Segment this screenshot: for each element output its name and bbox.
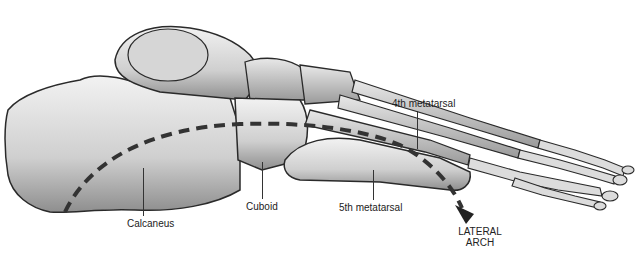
label-fifth-metatarsal: 5th metatarsal bbox=[339, 202, 402, 213]
talus-head bbox=[128, 29, 208, 81]
label-calcaneus: Calcaneus bbox=[127, 218, 174, 229]
label-lateral-arch-line1: LATERAL bbox=[458, 226, 502, 237]
arch-arrowhead bbox=[455, 205, 474, 224]
label-lateral-arch: LATERAL ARCH bbox=[458, 226, 502, 248]
label-lateral-arch-line2: ARCH bbox=[458, 237, 502, 248]
leader-cuboid bbox=[262, 162, 263, 199]
label-cuboid: Cuboid bbox=[246, 201, 278, 212]
leader-fifth-metatarsal bbox=[373, 170, 374, 200]
label-fourth-metatarsal: 4th metatarsal bbox=[392, 98, 455, 109]
foot-diagram: 4th metatarsal Calcaneus Cuboid 5th meta… bbox=[0, 0, 638, 256]
leader-calcaneus bbox=[143, 168, 144, 216]
foot-bones-illustration bbox=[0, 0, 638, 256]
leader-fourth-metatarsal bbox=[417, 111, 418, 149]
